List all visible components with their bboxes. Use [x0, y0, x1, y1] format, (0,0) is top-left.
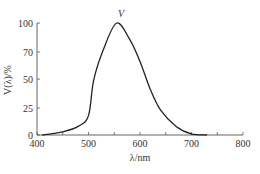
luminosity-curve — [42, 23, 207, 135]
y-axis-label: V(λ)/% — [2, 65, 14, 95]
x-tick-label: 600 — [133, 138, 148, 149]
labels-layer: λ/nm V(λ)/% V — [2, 8, 150, 163]
curve-layer — [42, 23, 207, 135]
x-tick-label: 800 — [236, 138, 251, 149]
y-tick-label: 0 — [28, 130, 33, 141]
curve-annotation-label: V — [118, 8, 126, 19]
y-tick-label: 70 — [23, 47, 33, 58]
x-tick-label: 700 — [184, 138, 199, 149]
x-axis-label: λ/nm — [130, 152, 151, 163]
luminosity-chart: 4005006007008000255070100 λ/nm V(λ)/% V — [0, 0, 260, 174]
y-tick-label: 100 — [18, 18, 33, 29]
y-tick-label: 25 — [23, 103, 33, 114]
axes: 4005006007008000255070100 — [18, 18, 251, 150]
y-tick-label: 50 — [23, 74, 33, 85]
x-tick-label: 500 — [81, 138, 96, 149]
